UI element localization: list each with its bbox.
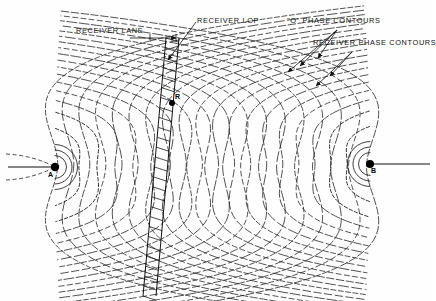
label-receiver-phase-contours: RECEIVER PHASE CONTOURS <box>313 38 436 47</box>
station-b-label: B <box>371 167 376 174</box>
label-receiver-lop: RECEIVER LOP <box>197 16 259 25</box>
label-receiver-lane: RECEIVER LANE <box>76 26 143 35</box>
station-a-label: A <box>48 171 53 178</box>
label-leader-lines <box>130 22 352 86</box>
label-zero-phase-contours: "O" PHASE CONTOURS <box>287 16 380 25</box>
station-markers <box>51 100 374 171</box>
phase-contours <box>45 6 378 301</box>
receiver-label: R <box>175 93 180 100</box>
receiver-lane-strip <box>143 38 179 300</box>
